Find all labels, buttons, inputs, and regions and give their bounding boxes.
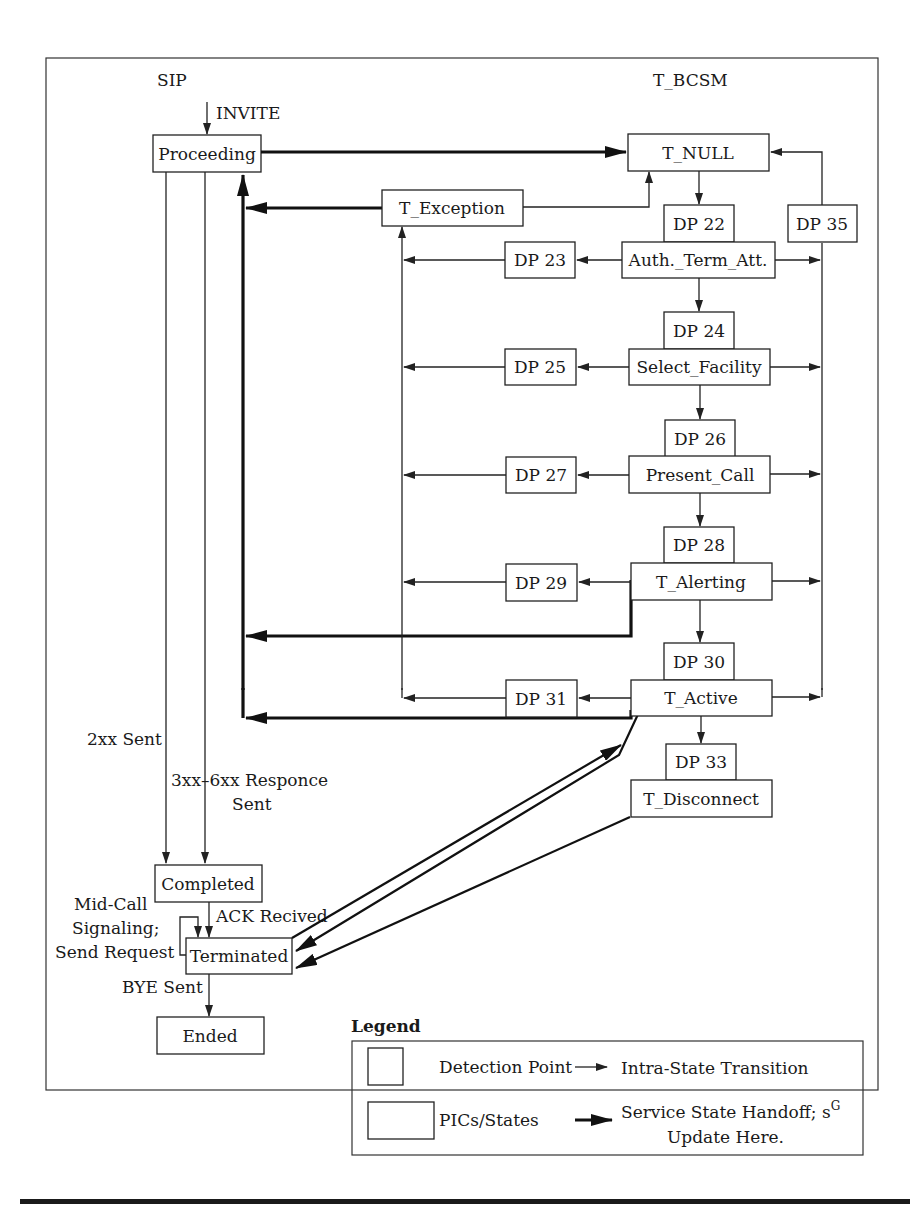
select-facility-label: Select_Facility bbox=[636, 357, 761, 377]
arrow-exception-to-tnull bbox=[523, 172, 649, 207]
state-select-facility: Select_Facility bbox=[629, 349, 770, 385]
handoff-disconnect-to-terminated bbox=[296, 817, 630, 968]
dp24-label: DP 24 bbox=[673, 321, 725, 341]
state-t-alerting: T_Alerting bbox=[631, 563, 772, 600]
dp-23: DP 23 bbox=[505, 242, 575, 278]
state-auth-term-att: Auth._Term_Att. bbox=[622, 242, 775, 278]
dp-25: DP 25 bbox=[505, 349, 576, 385]
dp-26: DP 26 bbox=[665, 420, 735, 457]
dp-29: DP 29 bbox=[506, 564, 577, 601]
state-terminated: Terminated bbox=[186, 938, 292, 974]
invite-label: INVITE bbox=[216, 103, 280, 123]
t-exception-label: T_Exception bbox=[399, 198, 505, 218]
t-active-label: T_Active bbox=[664, 688, 738, 708]
label-midcall-line1: Mid-Call bbox=[74, 894, 148, 914]
dp28-label: DP 28 bbox=[673, 535, 725, 555]
dp-33: DP 33 bbox=[666, 744, 736, 780]
legend-handoff-line1: Service State Handoff; sG bbox=[621, 1099, 840, 1122]
bottom-rule bbox=[20, 1199, 910, 1204]
dp29-label: DP 29 bbox=[515, 573, 567, 593]
handoff-terminated-to-active bbox=[292, 745, 621, 938]
state-present-call: Present_Call bbox=[629, 456, 770, 493]
legend-detection-point-label: Detection Point bbox=[439, 1057, 572, 1077]
dp23-label: DP 23 bbox=[514, 250, 566, 270]
label-midcall-line3: Send Request bbox=[55, 942, 174, 962]
completed-label: Completed bbox=[161, 874, 255, 894]
state-completed: Completed bbox=[155, 865, 262, 902]
dp-35: DP 35 bbox=[788, 205, 857, 242]
dp26-label: DP 26 bbox=[674, 429, 726, 449]
auth-term-att-label: Auth._Term_Att. bbox=[628, 250, 768, 270]
dp-27: DP 27 bbox=[506, 457, 576, 493]
t-alerting-label: T_Alerting bbox=[656, 572, 746, 592]
dp-30: DP 30 bbox=[664, 643, 734, 680]
dp25-label: DP 25 bbox=[514, 357, 566, 377]
state-t-active: T_Active bbox=[631, 680, 772, 716]
legend-handoff-line2: Update Here. bbox=[667, 1127, 784, 1147]
legend-detection-point-swatch bbox=[368, 1048, 403, 1085]
label-midcall-line2: Signaling; bbox=[72, 918, 159, 938]
state-proceeding: Proceeding bbox=[153, 135, 261, 172]
dp-28: DP 28 bbox=[664, 527, 734, 563]
legend-pics-states-label: PICs/States bbox=[439, 1110, 539, 1130]
proceeding-label: Proceeding bbox=[158, 144, 256, 164]
t-disconnect-label: T_Disconnect bbox=[643, 789, 759, 809]
legend-title: Legend bbox=[351, 1016, 421, 1036]
label-bye-sent: BYE Sent bbox=[122, 977, 203, 997]
dp31-label: DP 31 bbox=[515, 689, 567, 709]
dp-22: DP 22 bbox=[664, 205, 734, 242]
state-t-null: T_NULL bbox=[628, 134, 769, 171]
arrow-dp35-to-tnull bbox=[771, 152, 822, 205]
legend-handoff-text: Service State Handoff; s bbox=[621, 1102, 831, 1122]
t-null-label: T_NULL bbox=[662, 143, 734, 163]
state-t-exception: T_Exception bbox=[382, 190, 523, 226]
dp22-label: DP 22 bbox=[673, 214, 725, 234]
dp35-label: DP 35 bbox=[796, 214, 848, 234]
dp30-label: DP 30 bbox=[673, 652, 725, 672]
legend-pic-swatch bbox=[368, 1102, 434, 1139]
state-ended: Ended bbox=[157, 1017, 264, 1054]
label-3xx-6xx-line1: 3xx–6xx Responce bbox=[171, 770, 328, 790]
dp27-label: DP 27 bbox=[515, 465, 567, 485]
handoff-active-to-terminated bbox=[296, 710, 640, 951]
sip-tbcsm-state-diagram: SIP T_BCSM INVITE Proceeding 2xx Sent 3x… bbox=[0, 0, 924, 1226]
state-t-disconnect: T_Disconnect bbox=[631, 780, 772, 817]
dp-24: DP 24 bbox=[664, 312, 734, 349]
legend-handoff-sup: G bbox=[831, 1099, 841, 1113]
label-3xx-6xx-line2: Sent bbox=[232, 794, 272, 814]
legend-intra-state-label: Intra-State Transition bbox=[621, 1058, 809, 1078]
sip-title: SIP bbox=[157, 70, 187, 90]
terminated-label: Terminated bbox=[190, 946, 289, 966]
tbcsm-title: T_BCSM bbox=[653, 70, 728, 90]
dp-31: DP 31 bbox=[506, 680, 577, 717]
label-2xx-sent: 2xx Sent bbox=[87, 729, 162, 749]
present-call-label: Present_Call bbox=[646, 465, 755, 485]
dp33-label: DP 33 bbox=[675, 752, 727, 772]
ended-label: Ended bbox=[182, 1026, 237, 1046]
label-ack-received: ACK Recived bbox=[215, 906, 328, 926]
